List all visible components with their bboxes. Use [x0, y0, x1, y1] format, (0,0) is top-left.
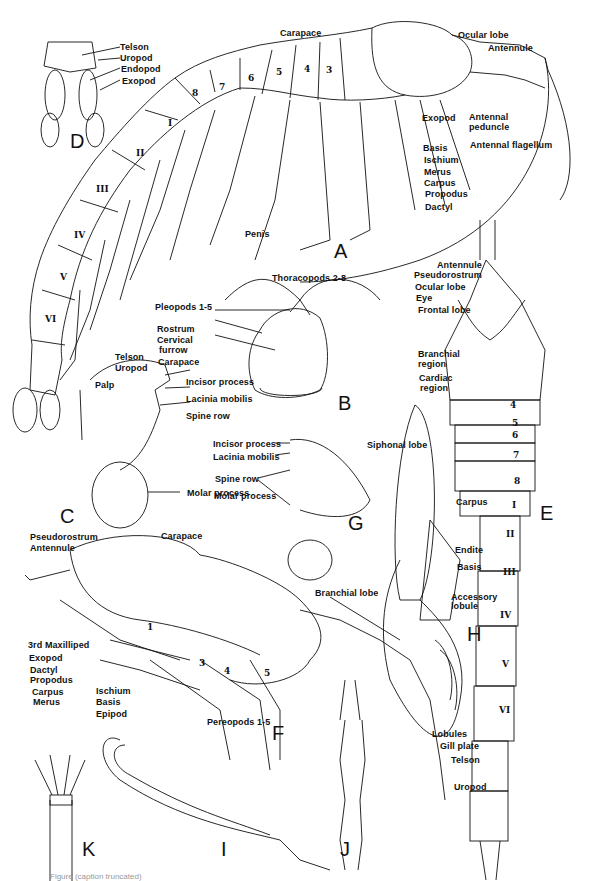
segment-e-7: 7: [513, 450, 519, 460]
label-a-antennal-flagellum: Antennal flagellum: [470, 140, 552, 150]
label-f-ischium: Ischium: [96, 686, 131, 696]
segment-a-7: 7: [219, 82, 225, 92]
label-e-eye: Eye: [416, 293, 432, 303]
label-h-lobules: Lobules: [432, 729, 467, 739]
segment-a-I: I: [168, 118, 172, 128]
label-h-endite: Endite: [455, 545, 483, 555]
label-f-exopod: Exopod: [29, 653, 63, 663]
label-g-spine-row: Spine row: [215, 474, 259, 484]
label-a-pleopods: Pleopods 1-5: [155, 302, 212, 312]
label-e-branchial-1: Branchial: [418, 349, 460, 359]
panel-letter-e: E: [540, 502, 553, 525]
segment-a-5: 5: [276, 67, 282, 77]
segment-e-4: 4: [510, 400, 516, 410]
label-a-ischium: Ischium: [424, 155, 459, 165]
label-a-antennal-peduncle-2: peduncle: [469, 122, 509, 132]
panel-i-drawing: [103, 738, 330, 870]
segment-e-VI: VI: [499, 705, 510, 715]
panel-letter-c: C: [60, 505, 74, 528]
label-e-cardiac-1: Cardiac: [419, 373, 453, 383]
label-a-carapace: Carapace: [280, 28, 321, 38]
label-h-basis: Basis: [457, 562, 482, 572]
panel-letter-b: B: [338, 392, 351, 415]
label-f-antennule: Antennule: [30, 543, 75, 553]
label-d-telson: Telson: [120, 42, 149, 52]
label-j-telson: Telson: [451, 755, 480, 765]
label-e-ocular-lobe: Ocular lobe: [415, 282, 466, 292]
panel-letter-a: A: [334, 240, 347, 263]
label-g-incisor: Incisor process: [213, 439, 281, 449]
label-a-merus: Merus: [424, 167, 451, 177]
label-e-branchial-2: region: [418, 359, 446, 369]
label-c-palp: Palp: [95, 380, 114, 390]
panel-a-drawing: [13, 22, 570, 432]
figure-caption: Figure (caption truncated): [50, 872, 142, 881]
label-a-thoracopods: Thoracopods 2-8: [272, 273, 346, 283]
panel-letter-g: G: [348, 512, 364, 535]
segment-a-V: V: [60, 272, 67, 282]
segment-e-IV: IV: [500, 610, 511, 620]
segment-e-I: I: [512, 500, 516, 510]
panel-h-drawing: [330, 405, 462, 736]
panel-k-drawing: [35, 755, 85, 881]
label-a-telson: Telson: [115, 352, 144, 362]
label-b-carapace: Carapace: [158, 357, 199, 367]
segment-e-V: V: [502, 659, 509, 669]
leg-number-f-4: 4: [224, 666, 230, 676]
panel-letter-j: J: [340, 838, 350, 861]
label-b-cervical-1: Cervical: [157, 335, 193, 345]
segment-a-IV: IV: [74, 230, 85, 240]
label-f-maxilliped: 3rd Maxilliped: [28, 640, 89, 650]
label-c-spine-row: Spine row: [186, 411, 230, 421]
segment-e-6: 6: [512, 430, 518, 440]
panel-letter-h: H: [467, 623, 481, 646]
panel-letter-d: D: [70, 130, 84, 153]
label-f-carpus: Carpus: [32, 687, 64, 697]
segment-e-III: III: [503, 567, 516, 577]
label-e-frontal-lobe: Frontal lobe: [418, 305, 471, 315]
label-f-merus: Merus: [33, 697, 60, 707]
label-c-lacinia: Lacinia mobilis: [186, 394, 253, 404]
label-a-dactyl: Dactyl: [425, 202, 453, 212]
label-h-siphonal-lobe: Siphonal lobe: [367, 440, 427, 450]
segment-e-II: II: [506, 529, 514, 539]
panel-letter-f: F: [272, 722, 284, 745]
label-a-carpus: Carpus: [424, 178, 456, 188]
label-f-pseudorostrum: Pseudorostrum: [30, 532, 98, 542]
segment-e-5: 5: [512, 418, 518, 428]
panel-letter-k: K: [82, 838, 95, 861]
line-art-drawings: [0, 0, 589, 881]
label-a-antennal-peduncle-1: Antennal: [469, 112, 508, 122]
leg-number-f-5: 5: [264, 668, 270, 678]
label-f-pereopods: Pereopods 1-5: [207, 717, 270, 727]
label-b-rostrum: Rostrum: [157, 324, 195, 334]
label-d-exopod: Exopod: [122, 76, 156, 86]
label-b-cervical-2: furrow: [159, 345, 188, 355]
label-f-dactyl: Dactyl: [30, 665, 58, 675]
cumacean-anatomy-figure: A B C D E F G H I J K Carapace Ocular lo…: [0, 0, 589, 881]
panel-letter-i: I: [221, 838, 227, 861]
label-e-antennule: Antennule: [437, 260, 482, 270]
label-g-molar: Molar process: [214, 491, 276, 501]
leg-number-f-1: 1: [147, 622, 153, 632]
segment-a-3: 3: [326, 65, 332, 75]
label-h-accessory-2: lobule: [451, 601, 478, 611]
label-h-gill-plate: Gill plate: [440, 741, 479, 751]
label-a-penis: Penis: [245, 229, 270, 239]
label-j-uropod: Uropod: [454, 782, 487, 792]
segment-a-III: III: [96, 184, 109, 194]
segment-a-6: 6: [248, 73, 254, 83]
segment-a-VI: VI: [45, 314, 56, 324]
label-g-lacinia: Lacinia mobilis: [213, 452, 280, 462]
label-e-pseudorostrum: Pseudorostrum: [414, 270, 482, 280]
segment-a-II: II: [136, 148, 144, 158]
label-d-endopod: Endopod: [121, 64, 161, 74]
label-a-ocular-lobe: Ocular lobe: [458, 30, 509, 40]
label-c-incisor: Incisor process: [186, 377, 254, 387]
label-e-cardiac-2: region: [420, 383, 448, 393]
segment-a-4: 4: [304, 64, 310, 74]
label-f-epipod: Epipod: [96, 709, 127, 719]
segment-e-8: 8: [514, 476, 520, 486]
label-a-propodus: Propodus: [425, 189, 468, 199]
label-a-basis: Basis: [423, 143, 448, 153]
